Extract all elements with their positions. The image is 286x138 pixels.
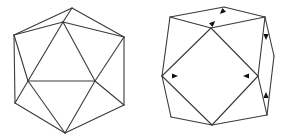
edge-mid-left-to-bottom [28, 81, 65, 133]
edge-top-left-to-sq-left [162, 17, 170, 76]
arrow-top-down-left-icon [220, 8, 226, 14]
arrow-right-edge-up-icon [263, 92, 268, 98]
arrow-right-vertex-left-icon [243, 73, 249, 78]
collapsed-polyhedron-figure [162, 7, 274, 125]
edge-lower-right-to-bottom [65, 105, 124, 133]
diagram-canvas [0, 0, 286, 138]
edge-lower-left-to-bottom [15, 103, 65, 133]
edge-sq-left-to-sq-bottom [162, 76, 212, 125]
edge-upper-inner-to-mid-left [28, 22, 63, 81]
arrow-right-edge-down-icon [263, 34, 268, 40]
arrow-top-up-right-icon [209, 21, 215, 27]
edge-upper-inner-to-mid-right [63, 22, 95, 81]
edge-top-to-upper-right [72, 8, 124, 37]
edge-upper-left-to-lower-left [14, 35, 15, 103]
edge-top-center-to-top-right [224, 7, 265, 17]
edge-upper-inner-to-upper-right [63, 22, 124, 37]
arrow-left-vertex-right-icon [172, 73, 178, 78]
edge-top-left-to-sq-top [170, 17, 211, 28]
edge-upper-right-to-mid-right [95, 37, 124, 81]
edge-bottom-left-to-sq-bottom [171, 117, 212, 125]
edge-sq-left-to-bottom-left [162, 76, 171, 117]
edge-sq-top-to-sq-left [162, 28, 211, 76]
edge-far-right-to-lower-right [267, 56, 274, 115]
edge-mid-right-to-lower-right [95, 81, 124, 105]
edge-sq-top-to-top-right [211, 17, 265, 28]
edge-mid-left-to-lower-left [15, 81, 28, 103]
edge-upper-left-to-mid-left [14, 35, 28, 81]
edge-mid-right-to-bottom [65, 81, 95, 133]
edge-top-left-to-top-center [170, 7, 224, 17]
icosahedron-figure [14, 8, 124, 133]
edge-top-right-to-sq-right [258, 17, 265, 76]
edge-sq-top-to-sq-right [211, 28, 258, 76]
